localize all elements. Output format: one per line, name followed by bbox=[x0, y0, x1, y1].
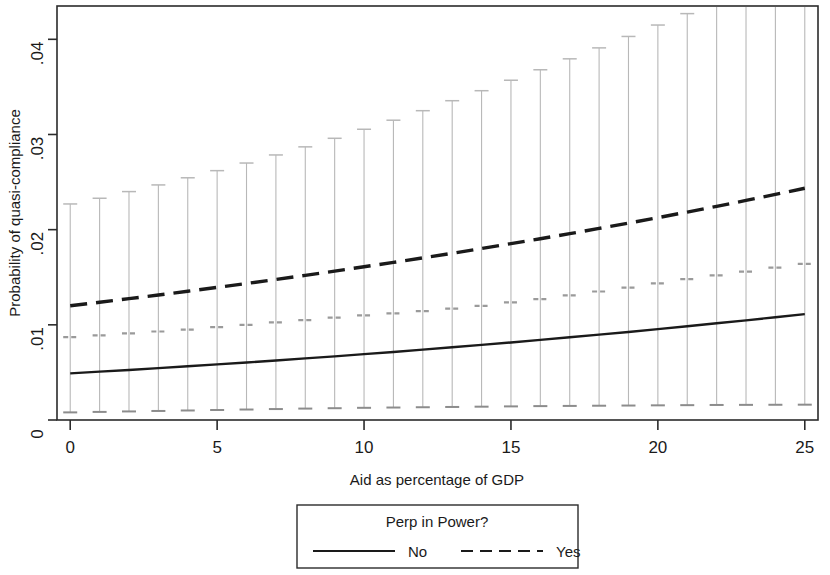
x-tick-label: 15 bbox=[501, 438, 520, 457]
quasi-compliance-chart: 0.01.02.03.04 0510152025 Aid as percenta… bbox=[0, 0, 830, 575]
y-tick-label: .02 bbox=[28, 232, 47, 256]
x-tick-label: 20 bbox=[648, 438, 667, 457]
y-tick-label: 0 bbox=[28, 429, 47, 438]
y-tick-label: .01 bbox=[28, 327, 47, 351]
x-tick-label: 0 bbox=[65, 438, 74, 457]
x-tick-label: 25 bbox=[795, 438, 814, 457]
y-axis-ticks: 0.01.02.03.04 bbox=[28, 39, 57, 438]
x-tick-label: 10 bbox=[355, 438, 374, 457]
x-axis-title: Aid as percentage of GDP bbox=[350, 471, 524, 488]
x-tick-label: 5 bbox=[212, 438, 221, 457]
x-axis-ticks: 0510152025 bbox=[65, 420, 814, 457]
y-axis-title: Probability of quasi-compliance bbox=[6, 109, 23, 317]
figure-container: 0.01.02.03.04 0510152025 Aid as percenta… bbox=[0, 0, 830, 575]
y-tick-label: .03 bbox=[28, 137, 47, 161]
y-tick-label: .04 bbox=[28, 41, 47, 65]
legend-label-yes: Yes bbox=[556, 543, 580, 560]
legend-label-no: No bbox=[408, 543, 427, 560]
legend: Perp in Power? No Yes bbox=[297, 505, 580, 568]
plot-background bbox=[57, 6, 818, 420]
legend-title: Perp in Power? bbox=[386, 513, 489, 530]
